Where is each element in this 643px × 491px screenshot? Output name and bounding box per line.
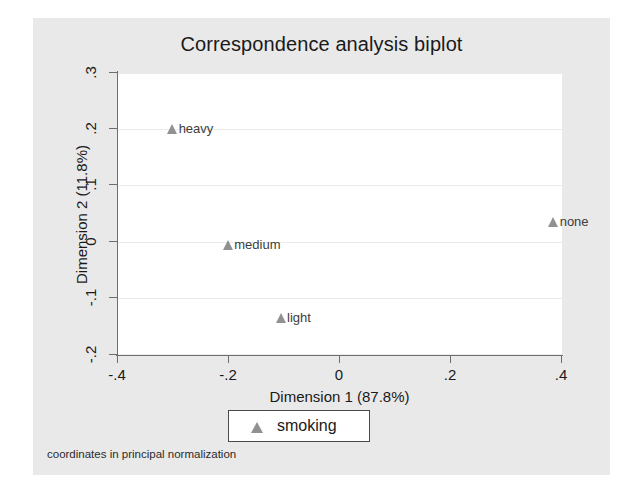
y-axis-title: Dimension 2 (11.8%) [73,75,90,355]
x-tick [561,355,562,363]
gridline [117,298,562,299]
x-tick [117,355,118,363]
legend-item-label: smoking [277,417,337,435]
data-point-label: light [287,310,311,325]
y-tick [109,241,117,242]
y-tick [109,184,117,185]
data-point-marker [276,313,286,323]
x-tick-label: -.2 [208,366,248,383]
data-point-marker [223,240,233,250]
x-axis-title: Dimension 1 (87.8%) [117,388,562,405]
gridline [117,73,562,74]
x-tick-label: 0 [319,366,359,383]
gridline [117,185,562,186]
data-point-marker [548,217,558,227]
x-tick-label: -.4 [97,366,137,383]
gridline [117,242,562,243]
x-tick-label: .2 [430,366,470,383]
y-tick [109,354,117,355]
x-tick [450,355,451,363]
data-point-label: heavy [179,121,214,136]
data-point-marker [167,124,177,134]
x-tick [228,355,229,363]
y-tick [109,72,117,73]
legend[interactable]: smoking [228,410,370,442]
chart-figure: Correspondence analysis biplot heavymedi… [33,18,610,475]
chart-note: coordinates in principal normalization [47,448,236,460]
plot-area: heavymediumlightnone [117,73,562,355]
chart-title: Correspondence analysis biplot [33,33,610,56]
triangle-up-icon [251,422,263,433]
x-tick [339,355,340,363]
y-tick [109,128,117,129]
data-point-label: none [560,214,589,229]
y-axis-line [117,71,118,357]
data-point-label: medium [234,237,280,252]
x-tick-label: .4 [541,366,581,383]
y-tick [109,297,117,298]
